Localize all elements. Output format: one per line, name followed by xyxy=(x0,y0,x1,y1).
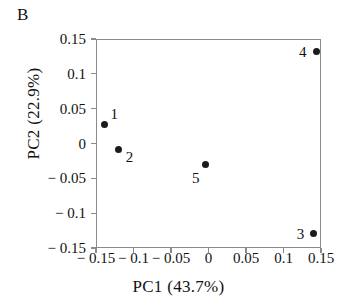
y-axis-title: PC2 (22.9%) xyxy=(25,14,42,214)
data-point-2 xyxy=(115,146,122,153)
data-point-3 xyxy=(310,230,317,237)
x-tick-label-5: 0.1 xyxy=(274,251,293,266)
y-tick-5 xyxy=(91,213,96,214)
y-tick-0 xyxy=(91,38,96,39)
y-tick-label-2: 0.05 xyxy=(0,101,86,116)
data-point-5 xyxy=(202,161,209,168)
y-tick-label-5: − 0.1 xyxy=(0,206,86,221)
y-tick-label-0: 0.15 xyxy=(0,32,86,47)
data-point-label-2: 2 xyxy=(126,150,134,165)
y-tick-2 xyxy=(91,108,96,109)
y-tick-6 xyxy=(91,247,96,248)
x-tick-label-3: 0 xyxy=(205,251,213,266)
x-tick-label-1: − 0.1 xyxy=(118,251,149,266)
y-tick-label-1: 0.1 xyxy=(0,66,86,81)
x-tick-label-2: − 0.05 xyxy=(152,251,190,266)
data-point-4 xyxy=(313,48,320,55)
pca-score-plot-figure: B 12345 − 0.15− 0.1− 0.0500.050.10.15 0.… xyxy=(0,0,357,308)
y-tick-1 xyxy=(91,73,96,74)
data-point-label-5: 5 xyxy=(192,171,200,186)
y-tick-3 xyxy=(91,143,96,144)
y-tick-label-6: − 0.15 xyxy=(0,241,86,256)
data-point-1 xyxy=(101,121,108,128)
data-point-label-4: 4 xyxy=(299,45,307,60)
y-tick-4 xyxy=(91,178,96,179)
x-axis-title: PC1 (43.7%) xyxy=(0,278,357,295)
data-point-label-3: 3 xyxy=(297,227,305,242)
y-tick-label-3: 0 xyxy=(0,136,86,151)
x-tick-label-4: 0.05 xyxy=(233,251,259,266)
plot-frame: 12345 xyxy=(96,39,321,248)
data-layer: 12345 xyxy=(97,40,320,247)
x-tick-label-6: 0.15 xyxy=(308,251,334,266)
y-tick-label-4: − 0.05 xyxy=(0,171,86,186)
data-point-label-1: 1 xyxy=(111,107,119,122)
